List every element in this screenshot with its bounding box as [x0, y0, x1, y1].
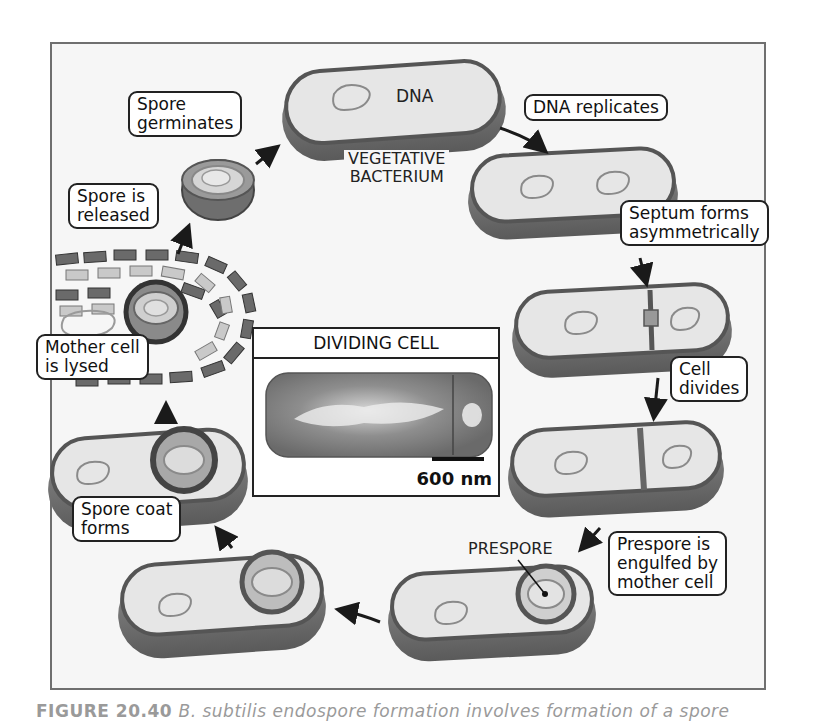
micrograph-inset: DIVIDING CELL 600 nm [252, 327, 500, 497]
figure-caption: FIGURE 20.40 B. subtilis endospore forma… [36, 701, 730, 721]
spore-released-label: Spore is released [68, 183, 159, 229]
vegetative-cell [279, 59, 508, 164]
dna-replicates-label: DNA replicates [524, 94, 668, 121]
prespore-label: PRESPORE [468, 540, 553, 558]
scale-bar [432, 457, 484, 461]
mother-cell-lysed-label: Mother cell is lysed [36, 334, 149, 380]
forespore-cell [115, 552, 328, 661]
spore-coat-forms-label: Spore coat forms [72, 496, 181, 542]
vegetative-bacterium-label: VEGETATIVE BACTERIUM [344, 150, 449, 186]
scale-label: 600 nm [417, 468, 492, 489]
engulfment-cell [386, 560, 598, 663]
septum-forms-label: Septum forms asymmetrically [620, 200, 769, 246]
dna-label: DNA [396, 87, 433, 105]
prespore-engulfed-label: Prespore is engulfed by mother cell [608, 531, 727, 596]
spore-germinates-label: Spore germinates [128, 91, 242, 137]
micrograph-title: DIVIDING CELL [254, 329, 498, 359]
divided-cell [506, 421, 726, 520]
released-spore [182, 160, 254, 220]
cell-divides-label: Cell divides [670, 356, 748, 402]
